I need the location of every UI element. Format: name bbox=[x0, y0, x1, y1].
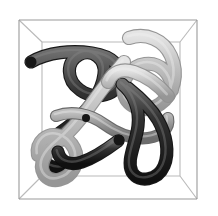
endpoint-dark-center bbox=[114, 135, 125, 146]
polymer-chain-group bbox=[30, 34, 175, 180]
box-edge-connector bbox=[19, 20, 42, 42]
polymer-visualization-figure bbox=[0, 0, 218, 216]
scene-canvas bbox=[0, 0, 218, 216]
box-edge-connector bbox=[180, 176, 197, 199]
box-edge-connector bbox=[19, 176, 42, 199]
endpoint-dark-left bbox=[26, 57, 37, 68]
endpoint-dark-small bbox=[82, 114, 90, 122]
box-edge-connector bbox=[180, 20, 197, 42]
